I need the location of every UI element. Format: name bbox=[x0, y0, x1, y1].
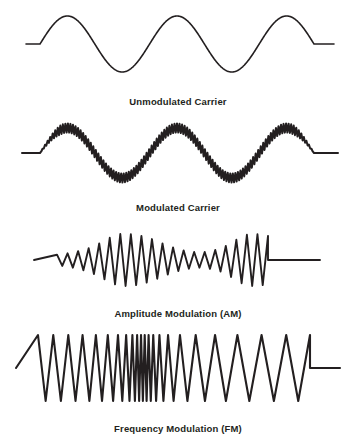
waveform-amplitude-modulation bbox=[0, 215, 356, 303]
caption-amplitude-modulation: Amplitude Modulation (AM) bbox=[0, 308, 356, 319]
caption-unmodulated-carrier: Unmodulated Carrier bbox=[0, 96, 356, 107]
caption-frequency-modulation: Frequency Modulation (FM) bbox=[0, 423, 356, 434]
caption-modulated-carrier: Modulated Carrier bbox=[0, 202, 356, 213]
waveform-modulated-carrier bbox=[0, 110, 356, 198]
modulation-figure: Unmodulated Carrier Modulated Carrier Am… bbox=[0, 0, 356, 438]
panel-frequency-modulation: Frequency Modulation (FM) bbox=[0, 320, 356, 438]
waveform-unmodulated-carrier bbox=[0, 0, 356, 90]
panel-unmodulated-carrier: Unmodulated Carrier bbox=[0, 0, 356, 110]
waveform-frequency-modulation bbox=[0, 320, 356, 418]
panel-modulated-carrier: Modulated Carrier bbox=[0, 110, 356, 215]
panel-amplitude-modulation: Amplitude Modulation (AM) bbox=[0, 215, 356, 320]
